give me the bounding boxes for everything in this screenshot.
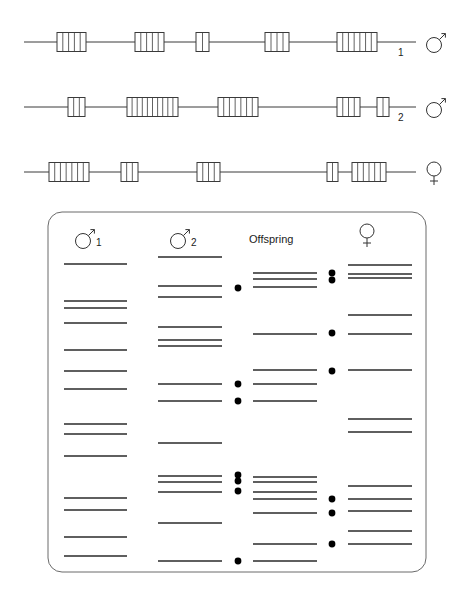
inheritance-dot [329, 277, 336, 284]
chromosome-male-1: 1 [24, 33, 416, 59]
inheritance-dot [235, 381, 242, 388]
lane-header-label: Offspring [249, 233, 293, 245]
tandem-repeat-block [57, 33, 86, 52]
lane-header-label: 1 [96, 237, 102, 248]
lane-header-offspring: Offspring [249, 233, 293, 245]
inheritance-dot [235, 478, 242, 485]
inheritance-dot [329, 496, 336, 503]
figure-canvas: 1212Offspring [0, 0, 466, 601]
chromosome-male-2: 2 [24, 98, 416, 124]
male-symbol-icon [427, 34, 446, 53]
tandem-repeat-block [135, 33, 164, 52]
male-symbol-icon [427, 99, 446, 118]
tandem-repeat-block [68, 98, 85, 117]
inheritance-dot [329, 270, 336, 277]
inheritance-dot [329, 510, 336, 517]
female-circle [427, 162, 441, 176]
male-arrow-shaft [439, 99, 445, 105]
inheritance-dot [235, 488, 242, 495]
inheritance-dot [235, 398, 242, 405]
chromosome-female [24, 163, 416, 182]
male-arrow-shaft [439, 34, 445, 40]
female-symbol-icon [427, 162, 441, 185]
inheritance-dot [235, 472, 242, 479]
lane-header-label: 2 [191, 237, 197, 248]
tandem-repeat-block [121, 163, 138, 182]
inheritance-dot [329, 330, 336, 337]
chromosome-label: 2 [398, 112, 404, 123]
male-circle [427, 103, 442, 118]
lane-header-male-1: 1 [96, 237, 102, 248]
inheritance-dot [329, 541, 336, 548]
chromosome-label: 1 [398, 47, 404, 58]
male-circle [427, 38, 442, 53]
inheritance-dot [235, 285, 242, 292]
inheritance-dot [235, 558, 242, 565]
gel-panel [48, 212, 426, 572]
dna-fingerprint-figure: 1212Offspring [0, 0, 466, 601]
lane-header-male-2: 2 [191, 237, 197, 248]
inheritance-dot [329, 368, 336, 375]
